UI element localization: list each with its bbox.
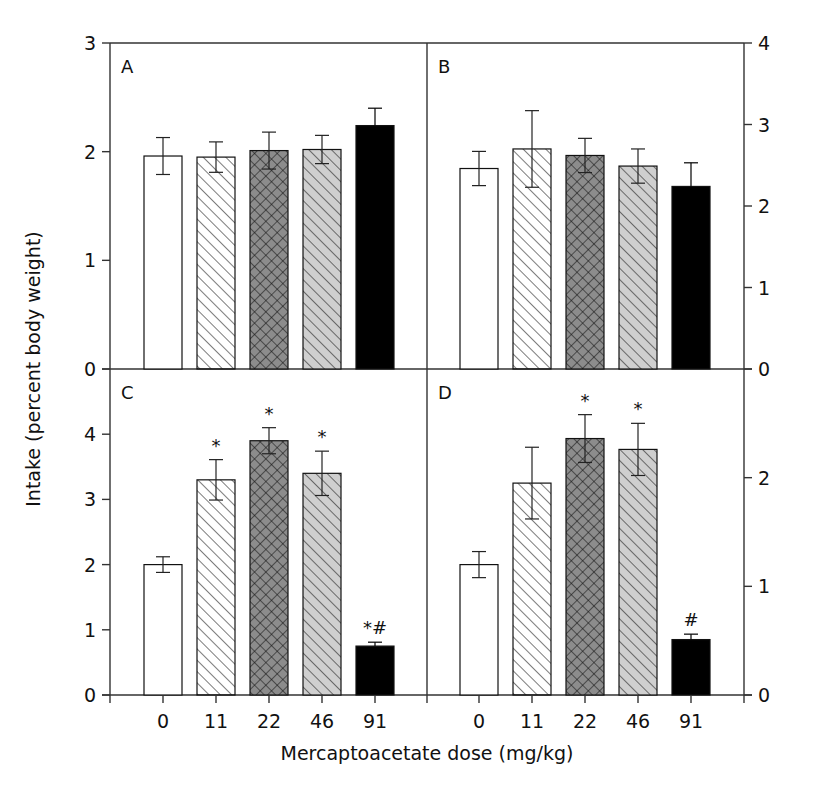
bar-dose-0 <box>460 169 498 369</box>
significance-marker: * <box>265 403 274 424</box>
bar-dose-22 <box>566 439 604 695</box>
panel-d: D012**# <box>438 382 770 706</box>
panel-label: B <box>438 56 450 77</box>
y-tick-label: 0 <box>758 684 770 706</box>
y-tick-label: 4 <box>84 423 96 445</box>
bar-dose-91 <box>672 186 710 369</box>
y-tick-label: 3 <box>84 32 96 54</box>
bar-dose-22 <box>566 155 604 369</box>
bar-dose-22 <box>250 441 288 695</box>
bar-dose-91 <box>672 640 710 695</box>
y-tick-label: 2 <box>84 141 96 163</box>
y-tick-label: 2 <box>84 554 96 576</box>
panel-label: A <box>121 56 134 77</box>
x-axis: 011224691011224691 <box>110 695 744 732</box>
bar-dose-46 <box>303 149 341 369</box>
x-tick-label: 0 <box>473 710 485 732</box>
y-tick-label: 0 <box>84 684 96 706</box>
y-tick-label: 4 <box>758 32 770 54</box>
y-tick-label: 1 <box>84 619 96 641</box>
y-tick-label: 0 <box>84 358 96 380</box>
bar-dose-22 <box>250 151 288 369</box>
significance-marker: # <box>683 609 698 630</box>
bar-dose-11 <box>197 480 235 695</box>
y-tick-label: 0 <box>758 358 770 380</box>
x-axis-label: Mercaptoacetate dose (mg/kg) <box>281 742 574 764</box>
y-axis-label: Intake (percent body weight) <box>22 231 44 507</box>
bar-dose-46 <box>619 449 657 695</box>
y-tick-label: 2 <box>758 467 770 489</box>
y-tick-label: 1 <box>84 249 96 271</box>
x-tick-label: 46 <box>310 710 334 732</box>
y-tick-label: 1 <box>758 575 770 597</box>
bar-dose-91 <box>356 126 394 369</box>
bar-dose-91 <box>356 646 394 695</box>
x-tick-label: 0 <box>157 710 169 732</box>
x-tick-label: 46 <box>626 710 650 732</box>
x-tick-label: 22 <box>257 710 281 732</box>
y-tick-label: 3 <box>84 488 96 510</box>
x-tick-label: 22 <box>573 710 597 732</box>
x-tick-label: 11 <box>520 710 544 732</box>
x-tick-label: 91 <box>679 710 703 732</box>
x-tick-label: 91 <box>363 710 387 732</box>
significance-marker: * <box>581 390 590 411</box>
significance-marker: * <box>318 426 327 447</box>
panel-a: A0123 <box>84 32 394 380</box>
bar-dose-46 <box>619 166 657 369</box>
panel-c: C01234****# <box>84 382 394 706</box>
bar-dose-11 <box>197 157 235 369</box>
y-tick-label: 3 <box>758 114 770 136</box>
x-tick-label: 11 <box>204 710 228 732</box>
significance-marker: * <box>634 398 643 419</box>
bar-chart-figure: A0123B01234C01234****#D012**# 0112246910… <box>0 0 816 797</box>
bar-dose-0 <box>144 156 182 369</box>
bar-dose-0 <box>144 565 182 695</box>
panel-label: D <box>438 382 452 403</box>
panel-b: B01234 <box>438 32 770 380</box>
panel-label: C <box>121 382 134 403</box>
significance-marker: *# <box>363 617 387 638</box>
bar-dose-46 <box>303 473 341 695</box>
y-tick-label: 1 <box>758 277 770 299</box>
y-tick-label: 2 <box>758 195 770 217</box>
significance-marker: * <box>212 435 221 456</box>
bar-dose-0 <box>460 565 498 695</box>
